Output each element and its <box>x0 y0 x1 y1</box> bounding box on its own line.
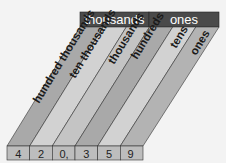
ones-label: ones <box>170 12 199 27</box>
place-value-diagram: thousands ones hundred thousands ten tho… <box>0 0 226 163</box>
digit-tens: 5 <box>106 148 112 160</box>
digit-thousands: 0, <box>59 148 68 160</box>
digit-ten-thousands: 2 <box>38 148 44 160</box>
digit-cells: 4 2 0, 3 5 9 <box>7 146 143 160</box>
digit-hundreds: 3 <box>83 148 89 160</box>
digit-hundred-thousands: 4 <box>15 148 21 160</box>
digit-ones: 9 <box>127 148 133 160</box>
